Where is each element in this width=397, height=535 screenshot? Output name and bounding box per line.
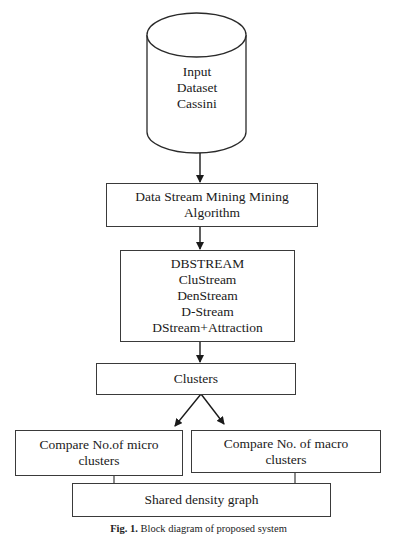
algorithm-dbstream: DBSTREAM xyxy=(171,256,245,272)
algorithm-d-stream: D-Stream xyxy=(181,304,233,320)
datastore-line-1: Input xyxy=(147,64,247,80)
algorithm-denstream: DenStream xyxy=(177,288,238,304)
macro-clusters-box: Compare No. of macro clusters xyxy=(191,430,381,473)
input-dataset-label: Input Dataset Cassini xyxy=(147,64,247,112)
algorithm-dstream-attraction: DStream+Attraction xyxy=(152,320,262,336)
caption-text: Block diagram of proposed system xyxy=(140,523,286,534)
mining-line-2: Algorithm xyxy=(184,205,240,221)
caption-fig-number: Fig. 1. xyxy=(110,523,138,534)
algorithm-clustream: CluStream xyxy=(179,272,237,288)
micro-line-2: clusters xyxy=(78,453,119,469)
micro-line-1: Compare No.of micro xyxy=(40,437,159,453)
arrow-clusters-to-macro xyxy=(201,394,224,424)
mining-line-1: Data Stream Mining Mining xyxy=(135,189,288,205)
datastore-line-2: Dataset xyxy=(147,80,247,96)
mining-algorithm-box: Data Stream Mining Mining Algorithm xyxy=(106,183,318,227)
arrow-clusters-to-micro xyxy=(175,394,201,426)
clusters-label: Clusters xyxy=(174,371,218,387)
datastore-line-3: Cassini xyxy=(147,96,247,112)
clusters-box: Clusters xyxy=(96,363,296,395)
algorithms-box: DBSTREAM CluStream DenStream D-Stream DS… xyxy=(120,250,295,342)
shared-density-graph-box: Shared density graph xyxy=(72,483,331,517)
macro-line-2: clusters xyxy=(265,452,306,468)
macro-line-1: Compare No. of macro xyxy=(224,436,348,452)
micro-clusters-box: Compare No.of micro clusters xyxy=(15,430,183,476)
shared-density-label: Shared density graph xyxy=(145,492,259,508)
figure-caption: Fig. 1. Block diagram of proposed system xyxy=(0,523,397,534)
